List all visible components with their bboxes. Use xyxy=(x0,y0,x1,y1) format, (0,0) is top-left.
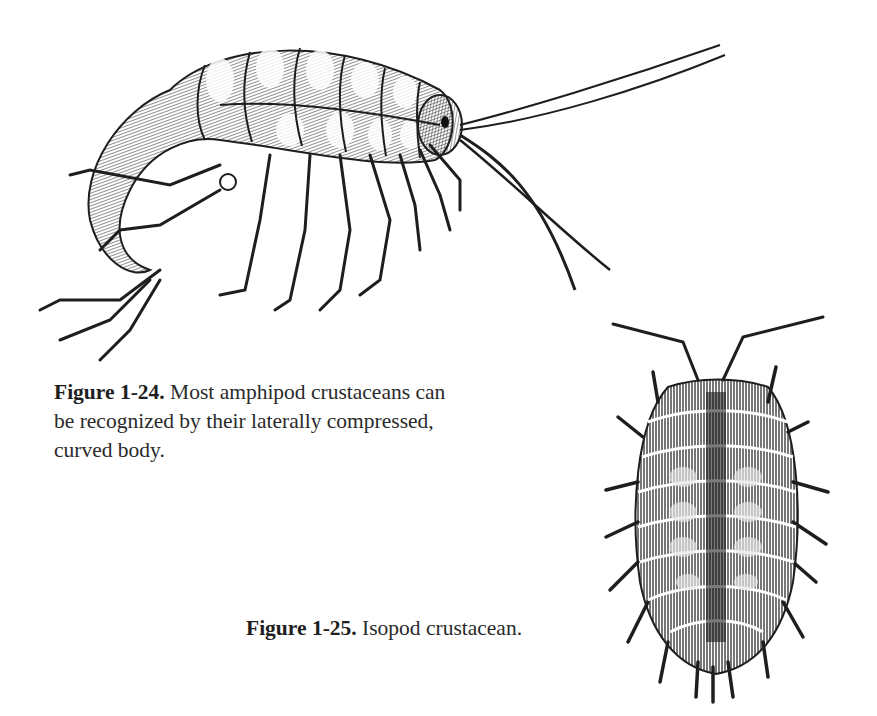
figure-1-24-caption-line-3: curved body. xyxy=(54,438,165,462)
figure-1-24-caption-line-1: Most amphipod crustaceans can xyxy=(170,380,445,404)
figure-1-25-caption-text: Isopod crustacean. xyxy=(362,616,522,640)
figure-1-24-caption: Figure 1-24. Most amphipod crustaceans c… xyxy=(54,378,554,465)
figure-1-24-caption-line-2: be recognized by their laterally compres… xyxy=(54,409,434,433)
figure-1-25-label: Figure 1-25. xyxy=(246,616,357,640)
isopod-illustration xyxy=(598,312,838,708)
document-page: Figure 1-24. Most amphipod crustaceans c… xyxy=(0,0,877,716)
figure-1-24-label: Figure 1-24. xyxy=(54,380,165,404)
figure-1-25-caption: Figure 1-25. Isopod crustacean. xyxy=(246,614,606,643)
